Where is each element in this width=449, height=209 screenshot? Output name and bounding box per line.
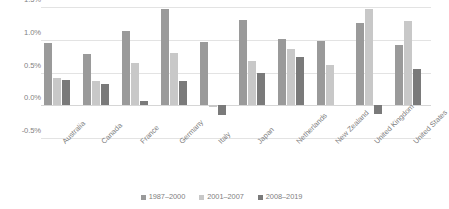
bar [53, 78, 61, 106]
legend-label: 1987–2000 [149, 193, 186, 201]
bar-series-container [41, 7, 431, 138]
bar [317, 41, 325, 105]
bar [248, 61, 256, 106]
legend-item[interactable]: 1987–2000 [141, 193, 186, 201]
bar [161, 9, 169, 105]
legend-swatch-icon [258, 195, 263, 200]
legend-item[interactable]: 2001–2007 [199, 193, 244, 201]
chart-legend: 1987–20002001–20072008–2019 [0, 190, 443, 204]
bar [395, 45, 403, 105]
bar [356, 23, 364, 106]
bar-group [236, 7, 275, 138]
bar [218, 105, 226, 115]
x-axis-label-cell: Netherlands [275, 139, 314, 187]
bar [62, 80, 70, 105]
y-axis: 1.5% 1.0% 0.5% 0.0% -0.5% [0, 0, 41, 131]
bar [278, 39, 286, 105]
bar [122, 31, 130, 106]
x-axis-labels: AustraliaCanadaFranceGermanyItalyJapanNe… [41, 139, 431, 187]
bar [239, 20, 247, 105]
bar [374, 105, 382, 114]
bar [140, 101, 148, 106]
bar [83, 54, 91, 105]
bar [44, 43, 52, 105]
y-tick-label: 1.0% [5, 29, 41, 37]
bar-group [275, 7, 314, 138]
bar [209, 105, 217, 107]
legend-item[interactable]: 2008–2019 [258, 193, 303, 201]
x-axis-label-cell: New Zealand [314, 139, 353, 187]
legend-label: 2001–2007 [207, 193, 244, 201]
x-axis-label-cell: United States [392, 139, 431, 187]
bar [365, 9, 373, 105]
bar [101, 84, 109, 105]
bar [257, 73, 265, 106]
bar-group [119, 7, 158, 138]
bar [326, 65, 334, 105]
bar [296, 57, 304, 105]
legend-label: 2008–2019 [266, 193, 303, 201]
x-axis-label-cell: Australia [41, 139, 80, 187]
bar [404, 21, 412, 105]
bar-group [158, 7, 197, 138]
bar-group [80, 7, 119, 138]
legend-swatch-icon [199, 195, 204, 200]
bar [131, 63, 139, 105]
x-axis-label-cell: France [119, 139, 158, 187]
y-tick-label: 1.5% [5, 0, 41, 4]
bar [200, 42, 208, 105]
legend-swatch-icon [141, 195, 146, 200]
bar [179, 81, 187, 105]
x-axis-label-cell: Italy [197, 139, 236, 187]
y-tick-label: 0.5% [5, 62, 41, 70]
bar [170, 53, 178, 105]
x-axis-label-cell: Japan [236, 139, 275, 187]
bar [92, 81, 100, 105]
x-axis-label-cell: Germany [158, 139, 197, 187]
x-axis-label-cell: Canada [80, 139, 119, 187]
plot-area [41, 7, 431, 138]
x-axis-label-cell: United Kingdom [353, 139, 392, 187]
y-tick-label: 0.0% [5, 94, 41, 102]
bar-group [197, 7, 236, 138]
bar [287, 49, 295, 105]
y-tick-label: -0.5% [5, 127, 41, 135]
bar [413, 69, 421, 106]
bar-group [41, 7, 80, 138]
